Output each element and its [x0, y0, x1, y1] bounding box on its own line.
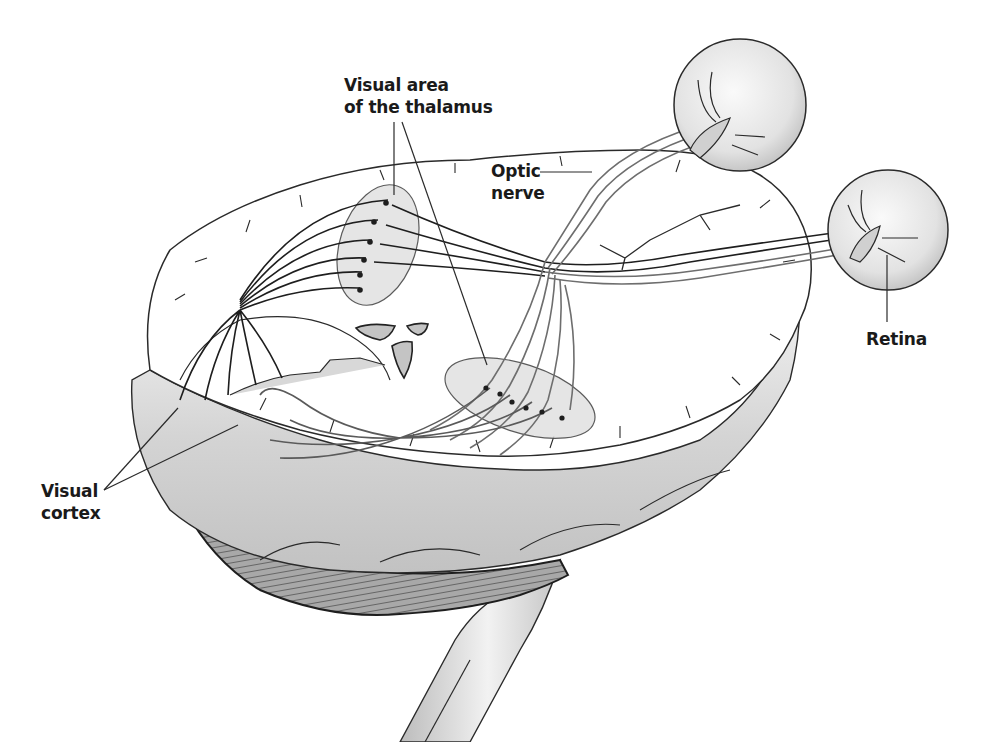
label-thalamus: Visual area of the thalamus	[344, 74, 493, 118]
label-optic-nerve-line1: Optic	[491, 160, 545, 182]
label-visual-cortex: Visual cortex	[41, 480, 101, 524]
label-optic-nerve-line2: nerve	[491, 182, 545, 204]
label-retina: Retina	[866, 328, 927, 350]
label-thalamus-line2: of the thalamus	[344, 96, 493, 118]
right-eye	[828, 170, 948, 290]
label-retina-line1: Retina	[866, 328, 927, 350]
left-eye	[674, 39, 806, 171]
visual-pathway-diagram	[0, 0, 987, 742]
label-thalamus-line1: Visual area	[344, 74, 493, 96]
label-visual-cortex-line1: Visual	[41, 480, 101, 502]
label-optic-nerve: Optic nerve	[491, 160, 545, 204]
label-visual-cortex-line2: cortex	[41, 502, 101, 524]
